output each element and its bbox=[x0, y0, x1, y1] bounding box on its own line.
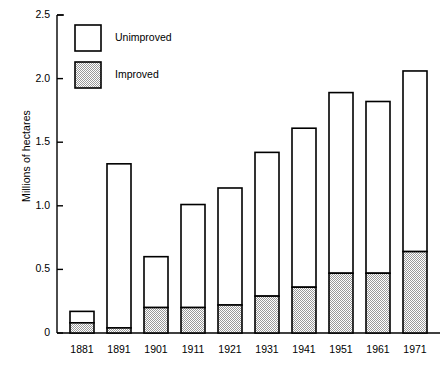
y-tick-label: 2.0 bbox=[10, 72, 50, 84]
bar-segment-unimproved bbox=[403, 71, 427, 252]
chart-canvas bbox=[0, 0, 447, 365]
bar-segment-unimproved bbox=[107, 164, 131, 328]
x-tick-label: 1971 bbox=[393, 343, 437, 355]
legend-swatch bbox=[75, 62, 101, 88]
y-tick-label: 0 bbox=[10, 326, 50, 338]
y-axis-title: Millions of hectares bbox=[20, 76, 32, 236]
bar-segment-improved bbox=[292, 287, 316, 333]
bar-segment-improved bbox=[218, 305, 242, 333]
y-tick-label: 1.0 bbox=[10, 199, 50, 211]
bar-segment-unimproved bbox=[70, 311, 94, 322]
bar-segment-improved bbox=[366, 273, 390, 333]
bar-segment-unimproved bbox=[255, 152, 279, 296]
y-tick-label: 1.5 bbox=[10, 135, 50, 147]
bar-segment-improved bbox=[107, 328, 131, 333]
bar-chart: Millions of hectares 00.51.01.52.02.5 18… bbox=[0, 0, 447, 365]
y-tick-label: 0.5 bbox=[10, 262, 50, 274]
bar-segment-unimproved bbox=[366, 101, 390, 273]
bar-segment-improved bbox=[181, 308, 205, 333]
bar-segment-unimproved bbox=[329, 93, 353, 274]
bar-segment-unimproved bbox=[181, 205, 205, 308]
legend-label: Improved bbox=[115, 68, 159, 80]
legend-label: Unimproved bbox=[115, 31, 172, 43]
bar-segment-unimproved bbox=[144, 257, 168, 308]
bar-segment-improved bbox=[144, 308, 168, 333]
bar-segment-improved bbox=[329, 273, 353, 333]
bar-segment-improved bbox=[255, 296, 279, 333]
y-tick-label: 2.5 bbox=[10, 8, 50, 20]
bar-segment-unimproved bbox=[292, 128, 316, 287]
bar-segment-improved bbox=[403, 252, 427, 333]
bar-segment-unimproved bbox=[218, 188, 242, 305]
legend-swatch bbox=[75, 25, 101, 51]
bar-segment-improved bbox=[70, 323, 94, 333]
